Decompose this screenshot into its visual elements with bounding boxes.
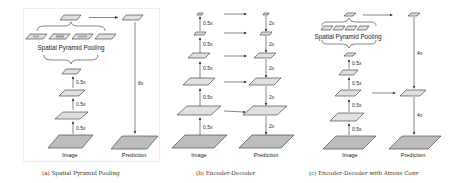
svg-text:0.5x: 0.5x — [203, 124, 213, 130]
feature-map-pooled — [60, 15, 81, 20]
input-image — [172, 135, 227, 148]
module-label-spp: Spatial Pyramid Pooling — [38, 44, 105, 52]
brace-top — [322, 18, 376, 26]
prediction-output — [239, 135, 294, 148]
enc-level-4 — [344, 53, 356, 56]
svg-text:0.5x: 0.5x — [352, 80, 362, 86]
dec-level-3 — [254, 53, 276, 58]
dec-level-5 — [263, 13, 269, 15]
input-image — [48, 135, 93, 148]
svg-text:0.5x: 0.5x — [203, 65, 213, 71]
pool-box-4 — [357, 26, 369, 30]
brace-bottom — [44, 55, 98, 64]
diagram-spatial-pyramid-pooling: Spatial Pyramid Pooling 0.5x 0.5x 0.5x I… — [0, 0, 470, 183]
prediction-output — [389, 136, 441, 149]
diagram-encoder-decoder-atrous: Spatial Pyramid Pooling 0.5x 0.5x 0.5x 0… — [315, 13, 441, 158]
pool-box-1 — [321, 26, 333, 30]
input-image — [323, 136, 376, 149]
output-label: Prediction — [401, 152, 425, 158]
output-label: Prediction — [254, 152, 278, 158]
svg-text:0.5x: 0.5x — [352, 60, 362, 66]
input-label: Image — [342, 152, 357, 158]
pool-box-3 — [345, 26, 357, 30]
dec-level-2 — [249, 78, 281, 85]
output-label: Prediction — [122, 152, 146, 158]
prediction-output — [111, 136, 158, 149]
feature-map-output-small — [122, 15, 143, 20]
svg-text:2x: 2x — [269, 94, 275, 100]
svg-text:0.5x: 0.5x — [352, 102, 362, 108]
input-label: Image — [191, 152, 206, 158]
feature-map-pooled — [344, 13, 356, 16]
brace-top — [37, 22, 105, 31]
svg-text:2x: 2x — [269, 65, 275, 71]
svg-text:0.5x: 0.5x — [352, 126, 362, 132]
dec-level-4 — [260, 32, 272, 35]
dec-level-1 — [243, 106, 287, 115]
svg-text:0.5x: 0.5x — [76, 125, 86, 131]
svg-text:2x: 2x — [269, 123, 275, 129]
enc-level-1 — [330, 113, 364, 121]
feature-map-1-8 — [62, 69, 81, 74]
module-label-spp: Spatial Pyramid Pooling — [315, 33, 382, 41]
caption-b: (b) Encoder-Decoder — [196, 170, 255, 176]
enc-level-5 — [197, 13, 203, 15]
upsample-label: 8x — [138, 80, 144, 86]
pool-box-4 — [95, 34, 116, 39]
input-label: Image — [62, 152, 77, 158]
enc-level-3 — [339, 70, 358, 75]
pool-box-2 — [333, 26, 345, 30]
brace-bottom — [322, 40, 376, 48]
feature-map-1-4 — [59, 90, 85, 96]
svg-text:0.5x: 0.5x — [76, 79, 86, 85]
svg-text:0.5x: 0.5x — [203, 20, 213, 26]
svg-text:0.5x: 0.5x — [203, 94, 213, 100]
caption-c: (c) Encoder-Decoder with Atrous Conv — [309, 170, 419, 176]
svg-text:4x: 4x — [417, 50, 423, 56]
svg-text:4x: 4x — [417, 112, 423, 118]
enc-level-4 — [194, 32, 206, 35]
caption-a: (a) Spatial Pyramid Pooling — [42, 170, 120, 176]
enc-level-2 — [183, 78, 215, 85]
enc-level-1 — [177, 106, 221, 115]
svg-text:0.5x: 0.5x — [203, 41, 213, 47]
decoder-top — [408, 13, 420, 16]
enc-level-3 — [188, 53, 210, 58]
enc-level-2 — [335, 90, 361, 96]
dec-level-1 — [400, 90, 426, 96]
svg-text:2x: 2x — [269, 20, 275, 26]
diagram-encoder-decoder: 0.5x 0.5x 0.5x 0.5x 0.5x Image 2x 2x 2x … — [172, 13, 294, 158]
svg-text:2x: 2x — [269, 41, 275, 47]
feature-map-1-2 — [55, 112, 88, 119]
svg-text:0.5x: 0.5x — [76, 101, 86, 107]
